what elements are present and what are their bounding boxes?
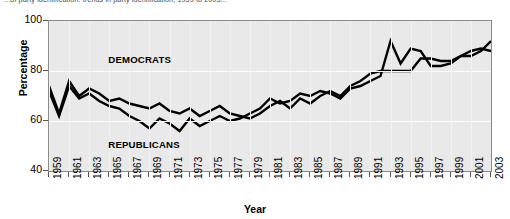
- x-tick-label-1967: 1967: [132, 157, 143, 179]
- x-tick-mark-2003: [490, 172, 491, 177]
- gridline-x-1995: [411, 21, 412, 171]
- x-tick-mark-1991: [369, 172, 370, 177]
- y-tick-label-100: 100: [12, 13, 42, 25]
- gridline-x-1963: [89, 21, 90, 171]
- x-tick-mark-1965: [108, 172, 109, 177]
- x-tick-mark-2001: [470, 172, 471, 177]
- x-tick-label-1989: 1989: [353, 157, 364, 179]
- x-tick-mark-1967: [128, 172, 129, 177]
- figure-caption-text: ...of party identification: trends in pa…: [4, 0, 227, 4]
- gridline-x-1973: [190, 21, 191, 171]
- gridline-x-1989: [350, 21, 351, 171]
- x-tick-label-1961: 1961: [72, 157, 83, 179]
- x-tick-mark-1985: [309, 172, 310, 177]
- x-tick-mark-1963: [88, 172, 89, 177]
- x-axis-title: Year: [0, 203, 510, 215]
- x-tick-mark-1969: [148, 172, 149, 177]
- gridline-x-1987: [330, 21, 331, 171]
- y-tick-mark-100: [43, 20, 48, 21]
- x-tick-label-1973: 1973: [193, 157, 204, 179]
- x-tick-mark-1999: [450, 172, 451, 177]
- x-tick-label-1959: 1959: [52, 157, 63, 179]
- x-tick-label-1997: 1997: [434, 157, 445, 179]
- gridline-x-1985: [310, 21, 311, 171]
- x-tick-label-1963: 1963: [92, 157, 103, 179]
- x-tick-mark-1977: [229, 172, 230, 177]
- series-annotation-democrats: DEMOCRATS: [108, 54, 171, 65]
- x-tick-label-1995: 1995: [414, 157, 425, 179]
- x-tick-mark-1989: [349, 172, 350, 177]
- x-tick-label-1979: 1979: [253, 157, 264, 179]
- x-tick-mark-1961: [68, 172, 69, 177]
- x-tick-mark-1997: [430, 172, 431, 177]
- x-tick-label-1991: 1991: [373, 157, 384, 179]
- x-tick-mark-1979: [249, 172, 250, 177]
- x-tick-label-1977: 1977: [233, 157, 244, 179]
- x-tick-label-1965: 1965: [112, 157, 123, 179]
- series-annotation-republicans: REPUBLICANS: [108, 139, 180, 150]
- x-tick-label-1993: 1993: [394, 157, 405, 179]
- x-tick-label-1983: 1983: [293, 157, 304, 179]
- x-tick-mark-1975: [209, 172, 210, 177]
- gridline-x-1983: [290, 21, 291, 171]
- gridline-x-1975: [210, 21, 211, 171]
- gridline-x-1977: [230, 21, 231, 171]
- y-tick-label-80: 80: [12, 63, 42, 75]
- x-tick-label-2003: 2003: [494, 157, 505, 179]
- gridline-x-1999: [451, 21, 452, 171]
- y-tick-label-60: 60: [12, 113, 42, 125]
- x-tick-mark-1995: [410, 172, 411, 177]
- gridline-x-1981: [270, 21, 271, 171]
- gridline-x-1997: [431, 21, 432, 171]
- y-tick-mark-40: [43, 170, 48, 171]
- gridline-x-1993: [391, 21, 392, 171]
- x-tick-label-1981: 1981: [273, 157, 284, 179]
- x-tick-label-1987: 1987: [333, 157, 344, 179]
- gridline-x-1961: [69, 21, 70, 171]
- y-tick-mark-60: [43, 120, 48, 121]
- gridline-x-1979: [250, 21, 251, 171]
- x-tick-mark-1959: [48, 172, 49, 177]
- chart-figure: ...of party identification: trends in pa…: [0, 0, 510, 219]
- y-tick-label-40: 40: [12, 163, 42, 175]
- x-tick-label-1971: 1971: [173, 157, 184, 179]
- x-tick-mark-1983: [289, 172, 290, 177]
- x-tick-label-1985: 1985: [313, 157, 324, 179]
- x-tick-label-1969: 1969: [152, 157, 163, 179]
- gridline-x-2001: [471, 21, 472, 171]
- gridline-x-1991: [370, 21, 371, 171]
- figure-caption: ...of party identification: trends in pa…: [0, 0, 510, 9]
- x-tick-mark-1971: [169, 172, 170, 177]
- x-tick-label-1975: 1975: [213, 157, 224, 179]
- y-tick-mark-80: [43, 70, 48, 71]
- x-tick-label-1999: 1999: [454, 157, 465, 179]
- x-tick-mark-1993: [390, 172, 391, 177]
- x-tick-mark-1981: [269, 172, 270, 177]
- x-tick-label-2001: 2001: [474, 157, 485, 179]
- x-tick-mark-1973: [189, 172, 190, 177]
- x-tick-mark-1987: [329, 172, 330, 177]
- gridline-x-1959: [49, 21, 50, 171]
